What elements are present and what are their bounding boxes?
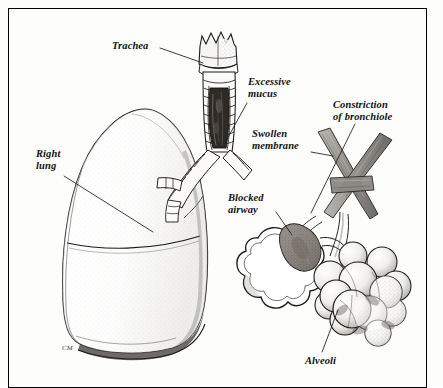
illustration-border: [8, 8, 427, 388]
